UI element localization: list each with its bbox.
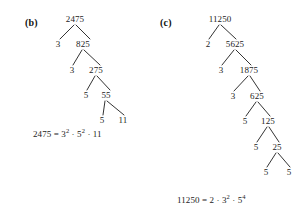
tree-branch [278, 153, 290, 167]
tree-branch [250, 76, 260, 91]
tree-node-3: 3 [231, 92, 236, 101]
tree-node-2: 2 [206, 40, 211, 49]
tree-node-5: 5 [84, 91, 89, 100]
tree-node-5: 5 [100, 116, 105, 125]
tree-node-3: 3 [70, 66, 75, 75]
factor-tree-figure: (b) 247538253275555511 2475 = 32 · 52 · … [0, 0, 300, 214]
part-label-c: (c) [160, 18, 172, 28]
tree-branch [97, 76, 110, 90]
tree-branch-layer [0, 0, 300, 214]
tree-branch [209, 25, 219, 39]
tree-node-125: 125 [261, 117, 275, 126]
tree-node-25: 25 [272, 143, 281, 152]
tree-branch [60, 25, 74, 39]
tree-branch [267, 153, 276, 167]
tree-node-5: 5 [243, 117, 248, 126]
tree-node-1875: 1875 [240, 66, 258, 75]
tree-node-5: 5 [287, 168, 292, 177]
tree-branch [258, 102, 270, 116]
tree-branch [257, 127, 267, 142]
tree-node-55: 55 [101, 91, 110, 100]
tree-branch [73, 50, 82, 65]
tree-branch [84, 50, 100, 65]
tree-node-11: 11 [119, 116, 128, 125]
tree-node-5: 5 [254, 143, 259, 152]
tree-node-2475: 2475 [66, 15, 84, 24]
tree-node-825: 825 [76, 40, 90, 49]
tree-branch [107, 101, 124, 115]
tree-branch [269, 127, 279, 142]
tree-branch [246, 102, 256, 116]
factorization-equation-b: 2475 = 32 · 52 · 11 [33, 130, 102, 139]
part-label-b: (b) [25, 18, 38, 28]
tree-node-3: 3 [56, 40, 61, 49]
tree-branch [76, 25, 90, 39]
tree-node-11250: 11250 [209, 15, 232, 24]
tree-branch [221, 25, 236, 39]
tree-branch [103, 101, 105, 115]
tree-node-5: 5 [264, 168, 269, 177]
tree-branch [236, 50, 251, 65]
factorization-equation-c: 11250 = 2 · 32 · 54 [177, 196, 246, 205]
tree-branch [87, 76, 95, 90]
tree-node-5625: 5625 [226, 40, 244, 49]
tree-node-3: 3 [219, 66, 224, 75]
tree-node-275: 275 [89, 66, 103, 75]
tree-node-625: 625 [250, 92, 264, 101]
tree-branch [222, 50, 234, 65]
tree-branch [234, 76, 248, 91]
